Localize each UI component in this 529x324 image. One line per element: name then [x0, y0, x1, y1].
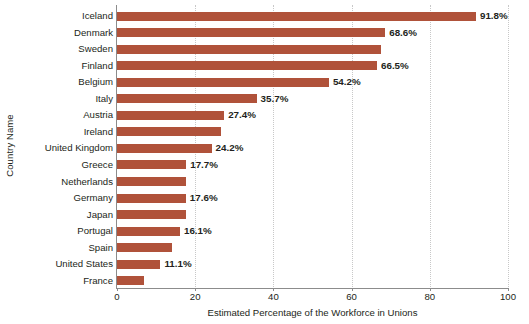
bar [117, 243, 172, 252]
bar [117, 28, 385, 37]
category-label: Netherlands [18, 177, 113, 187]
bar [117, 12, 476, 21]
bar-value-label: 91.8% [480, 11, 508, 21]
bar [117, 144, 212, 153]
bar [117, 276, 144, 285]
category-label: Spain [18, 243, 113, 253]
x-axis-title: Estimated Percentage of the Workforce in… [117, 307, 508, 318]
category-label: Ireland [18, 127, 113, 137]
x-tick-mark [430, 288, 431, 291]
bar [117, 61, 377, 70]
x-tick-label: 60 [346, 291, 357, 303]
bar [117, 111, 224, 120]
bar [117, 227, 180, 236]
bar-value-label: 24.2% [216, 143, 244, 153]
bar [117, 260, 160, 269]
bar [117, 194, 186, 203]
bar [117, 210, 186, 219]
bar [117, 94, 257, 103]
x-tick-label: 20 [190, 291, 201, 303]
value-axis-line [116, 288, 509, 289]
x-axis-tick-labels: 020406080100 [117, 291, 508, 305]
y-axis-title-text: Country Name [4, 114, 15, 176]
x-tick-mark [273, 288, 274, 291]
y-axis-title: Country Name [0, 0, 18, 290]
category-label: Iceland [18, 11, 113, 21]
bar [117, 78, 329, 87]
bar [117, 45, 381, 54]
plot-area: 91.8%68.6%66.5%54.2%35.7%27.4%24.2%17.7%… [117, 5, 508, 287]
category-label: United Kingdom [18, 143, 113, 153]
category-label: Denmark [18, 28, 113, 38]
gridline [430, 5, 432, 287]
bar-value-label: 17.6% [190, 193, 218, 203]
bar-value-label: 35.7% [261, 94, 289, 104]
y-axis-tick-labels: IcelandDenmarkSwedenFinlandBelgiumItalyA… [18, 5, 113, 287]
x-tick-label: 100 [500, 291, 516, 303]
category-label: Germany [18, 193, 113, 203]
category-label: Portugal [18, 226, 113, 236]
bar-chart: Country Name IcelandDenmarkSwedenFinland… [0, 0, 529, 324]
x-tick-mark [117, 288, 118, 291]
bar [117, 127, 221, 136]
x-tick-label: 40 [268, 291, 279, 303]
bar-value-label: 54.2% [333, 77, 361, 87]
bar-value-label: 11.1% [164, 259, 191, 269]
bar [117, 160, 186, 169]
bar-value-label: 68.6% [389, 28, 417, 38]
gridline [508, 5, 510, 287]
category-label: Austria [18, 110, 113, 120]
bar-value-label: 27.4% [228, 110, 256, 120]
x-tick-mark [352, 288, 353, 291]
category-label: United States [18, 259, 113, 269]
bar [117, 177, 186, 186]
x-tick-mark [508, 288, 509, 291]
x-tick-mark [195, 288, 196, 291]
x-tick-label: 80 [424, 291, 435, 303]
bar-value-label: 16.1% [184, 226, 212, 236]
category-label: Belgium [18, 77, 113, 87]
bar-value-label: 17.7% [190, 160, 218, 170]
category-label: Italy [18, 94, 113, 104]
category-label: France [18, 276, 113, 286]
bar-value-label: 66.5% [381, 61, 409, 71]
x-tick-label: 0 [114, 291, 119, 303]
category-label: Japan [18, 210, 113, 220]
category-label: Greece [18, 160, 113, 170]
category-label: Sweden [18, 44, 113, 54]
category-label: Finland [18, 61, 113, 71]
